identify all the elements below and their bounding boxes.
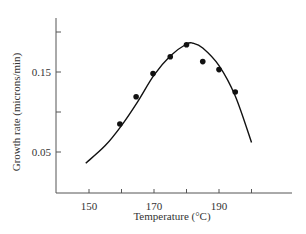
data-point <box>167 54 173 60</box>
x-tick-label: 150 <box>81 200 98 212</box>
data-point <box>150 71 156 77</box>
x-tick-label: 190 <box>211 200 228 212</box>
y-tick-label: 0.15 <box>32 66 52 78</box>
y-axis-title: Growth rate (microns/min) <box>10 52 23 171</box>
y-tick-label: 0.05 <box>32 146 52 158</box>
data-points <box>117 42 238 127</box>
fit-curve <box>86 43 252 164</box>
data-point <box>184 42 190 48</box>
axes: 1501701900.050.15 <box>32 18 292 212</box>
x-axis-title: Temperature (°C) <box>133 210 211 223</box>
data-point <box>232 89 238 95</box>
data-point <box>216 67 222 73</box>
chart-canvas: 1501701900.050.15 Temperature (°C) Growt… <box>0 0 306 234</box>
data-point <box>117 121 123 127</box>
data-point <box>133 94 139 100</box>
fit-curve-path <box>86 43 252 164</box>
data-point <box>200 59 206 65</box>
